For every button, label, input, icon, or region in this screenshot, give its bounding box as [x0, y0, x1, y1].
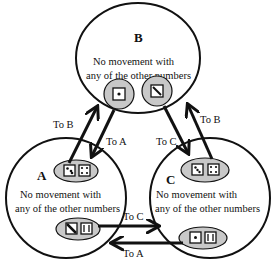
arrow-a-to-b-label: To B: [53, 119, 74, 130]
state-c-desc-line2: any of the other numbers: [155, 203, 260, 214]
state-a: A No movement with any of the other numb…: [6, 138, 126, 258]
state-b-desc-line1: No movement with: [93, 56, 175, 67]
state-b-desc-line2: any of the other numbers: [86, 70, 191, 81]
state-b-label: B: [134, 30, 143, 45]
arrow-c-to-b-label: To B: [200, 114, 221, 125]
state-a-label: A: [37, 168, 47, 183]
arrow-b-to-c-label: To C: [156, 136, 177, 147]
state-a-desc-line2: any of the other numbers: [15, 203, 120, 214]
state-b-die-1: [104, 79, 134, 109]
state-diagram: B No movement with any of the other numb…: [0, 0, 274, 268]
state-a-desc-line1: No movement with: [20, 189, 102, 200]
state-c-dice-top: [181, 158, 229, 182]
state-c-label: C: [166, 172, 175, 187]
state-a-dice-bottom: [56, 218, 100, 240]
arrow-b-to-c: To C: [156, 106, 188, 153]
state-c-dice-bottom: [179, 227, 227, 249]
arrow-a-to-c-label: To C: [123, 211, 144, 222]
state-b: B No movement with any of the other numb…: [76, 3, 200, 113]
arrow-c-to-a-label: To A: [123, 248, 144, 259]
arrow-b-to-a-label: To A: [106, 136, 127, 147]
state-c-desc-line1: No movement with: [156, 189, 238, 200]
state-a-dice-top: [54, 160, 98, 182]
state-b-die-2: [142, 76, 172, 106]
